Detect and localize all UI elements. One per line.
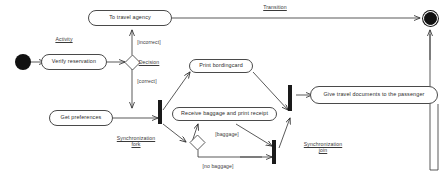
activity-node-label: Verify reservation [52,59,96,64]
annotation-label-line2: join [319,147,327,153]
edge-print-to-join-upper [253,72,288,110]
guard-correct: [correct] [124,79,170,84]
annotation-label: Activity [55,36,72,42]
activity-node-receive-baggage[interactable]: Receive baggage and print receipt [172,107,277,121]
activity-node-label: Print bordingcard [199,63,243,68]
synchronization-join-bar-upper[interactable] [288,85,292,111]
initial-node [15,54,31,70]
activity-node-label: Get preferences [61,115,102,120]
edge-decision2-nobaggage-path [198,150,262,157]
activity-diagram-canvas: To travel agency Verify reservation Get … [0,0,444,181]
annotation-activity: Activity [44,37,84,43]
activity-node-get-preferences[interactable]: Get preferences [49,110,113,126]
activity-node-give-documents[interactable]: Give travel documents to the passenger [310,86,438,104]
annotation-label: Transition [263,4,287,10]
guard-no-baggage: [no baggage] [190,164,246,169]
edge-fork-to-print [163,72,190,110]
guard-baggage: [baggage] [205,132,249,137]
annotation-transition: Transition [245,5,305,11]
guard-incorrect: [incorrect] [124,40,174,45]
activity-node-label: To travel agency [109,15,151,20]
guard-label: [baggage] [215,131,239,137]
guard-label: [no baggage] [203,163,234,169]
activity-node-print-boardingcard[interactable]: Print bordingcard [189,59,253,73]
annotation-label-line2: fork [131,141,140,147]
final-node [424,12,437,25]
synchronization-join-bar-lower[interactable] [272,140,276,164]
annotation-synchronization-fork: Synchronization fork [101,136,171,148]
activity-node-verify-reservation[interactable]: Verify reservation [41,54,107,70]
annotation-label: Decision [139,59,160,65]
activity-node-label: Receive baggage and print receipt [181,111,268,116]
guard-label: [incorrect] [137,39,160,45]
activity-node-label: Give travel documents to the passenger [324,92,425,97]
synchronization-fork-bar[interactable] [158,100,162,124]
annotation-synchronization-join: Synchronization join [288,142,358,154]
guard-label: [correct] [137,78,156,84]
activity-node-to-travel-agency[interactable]: To travel agency [88,10,172,26]
decision-diamond-2[interactable] [189,134,206,151]
edge-give-documents-right [430,104,438,170]
annotation-decision: Decision [126,60,172,66]
